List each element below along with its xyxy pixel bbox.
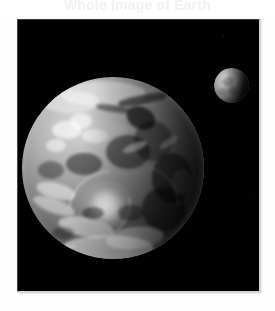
earth-atmospheric-limb	[22, 77, 204, 259]
page-title: Whole Image of Earth	[64, 0, 211, 12]
star-speck	[249, 198, 250, 199]
moon-terminator-shadow	[214, 68, 249, 103]
space-scene-image	[18, 20, 259, 291]
earth	[22, 77, 204, 259]
moon	[214, 68, 249, 103]
page-header: Whole Image of Earth	[0, 0, 275, 18]
star-speck	[223, 36, 224, 37]
photo-frame	[17, 19, 260, 292]
